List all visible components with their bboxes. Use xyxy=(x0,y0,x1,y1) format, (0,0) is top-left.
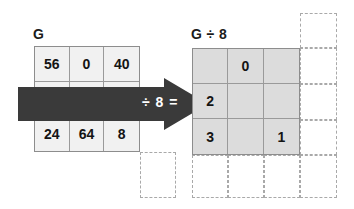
ghost-cell-result-right-r2 xyxy=(300,84,337,120)
ghost-cell-source-1 xyxy=(140,152,176,198)
ghost-cell-result-bottom-c2 xyxy=(228,155,264,198)
ghost-cell-result-bottom-c3 xyxy=(264,155,300,198)
result-cell-r1c3 xyxy=(264,49,299,84)
ghost-cell-result-bottom-c1 xyxy=(192,155,228,198)
source-cell-r1c3: 40 xyxy=(104,47,139,82)
result-cell-r2c3 xyxy=(264,84,299,119)
result-cell-r2c2 xyxy=(228,84,263,119)
ghost-cell-result-right-r1 xyxy=(300,48,337,84)
result-cell-r1c2: 0 xyxy=(228,49,263,84)
result-grid: 0 2 3 1 xyxy=(192,48,300,155)
source-grid-label: G xyxy=(33,27,44,41)
source-cell-r1c2: 0 xyxy=(70,47,105,82)
operation-arrow: ÷ 8 = xyxy=(18,78,208,130)
ghost-cell-result-right-r3 xyxy=(300,120,337,155)
operation-label: ÷ 8 = xyxy=(142,95,178,109)
result-cell-r3c1: 3 xyxy=(193,119,228,154)
ghost-cell-result-bottom-c4 xyxy=(300,155,337,198)
result-cell-r3c3: 1 xyxy=(264,119,299,154)
arrow-shape xyxy=(18,78,208,130)
result-cell-r1c1 xyxy=(193,49,228,84)
result-cell-r2c1: 2 xyxy=(193,84,228,119)
figure-canvas: G 56 0 40 16 32 48 24 64 8 ÷ 8 = G ÷ 8 0… xyxy=(0,0,354,209)
source-cell-r1c1: 56 xyxy=(35,47,70,82)
ghost-cell-result-top-right xyxy=(300,13,337,48)
result-cell-r3c2 xyxy=(228,119,263,154)
result-grid-label: G ÷ 8 xyxy=(191,27,227,41)
